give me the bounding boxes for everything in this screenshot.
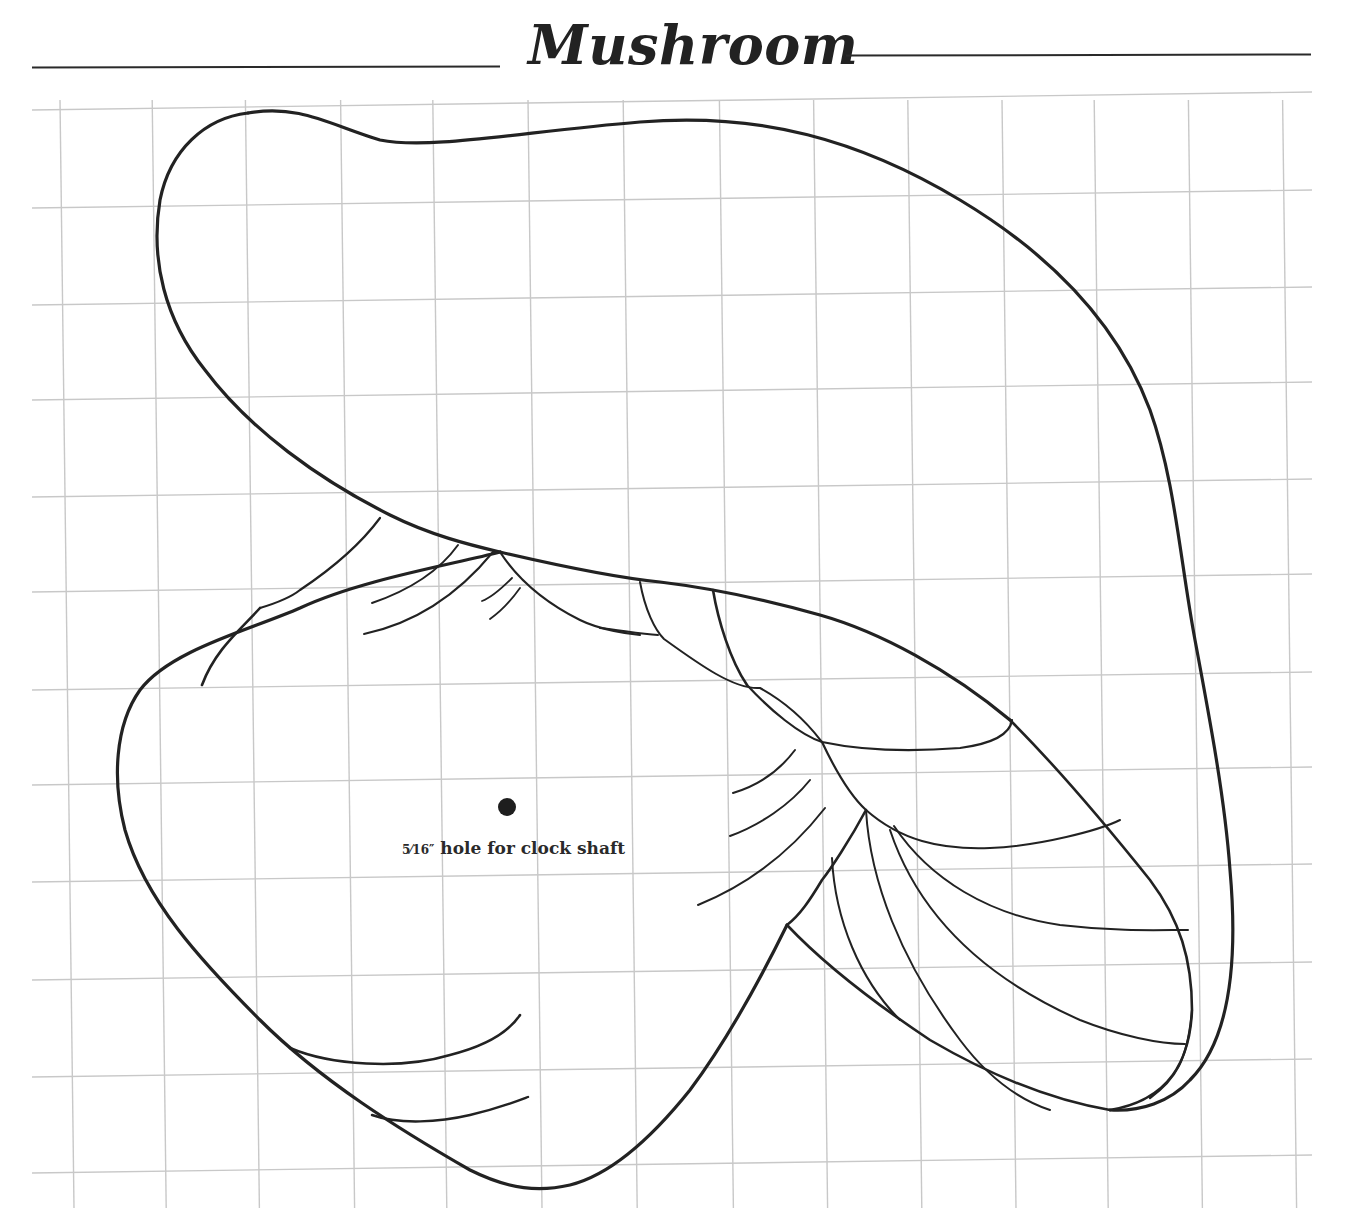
grid-column-line (1002, 100, 1016, 1208)
mushroom-pattern-drawing (0, 0, 1347, 1230)
mushroom-outline (117, 111, 1232, 1189)
grid-row-line (32, 962, 1312, 980)
hole-annotation: 5⁄16″ hole for clock shaft (402, 840, 625, 857)
grid-column-line (1188, 100, 1202, 1208)
grid-column-line (245, 100, 259, 1208)
grid-column-line (433, 100, 447, 1208)
hole-size-fraction: 5⁄16″ (402, 843, 434, 857)
grid-row-line (32, 1155, 1312, 1173)
grid-lines (32, 92, 1312, 1208)
grid-column-line (1094, 100, 1108, 1208)
grid-row-line (32, 767, 1312, 785)
grid-row-line (32, 287, 1312, 305)
title-banner: Mushroom (0, 0, 1347, 100)
grid-row-line (32, 864, 1312, 882)
grid-row-line (32, 1059, 1312, 1077)
page-title: Mushroom (528, 18, 858, 72)
grid-column-line (623, 100, 637, 1208)
pattern-sheet (0, 0, 1347, 1230)
title-rule-left (32, 65, 500, 68)
grid-column-line (60, 100, 74, 1208)
grid-column-line (814, 100, 828, 1208)
grid-column-line (1283, 100, 1297, 1208)
title-rule-right (846, 53, 1311, 56)
grid-column-line (528, 100, 542, 1208)
grid-row-line (32, 190, 1312, 208)
grid-row-line (32, 479, 1312, 497)
shaft-hole-marker (498, 798, 516, 816)
grid-row-line (32, 672, 1312, 690)
grid-column-line (341, 100, 355, 1208)
hole-annotation-text: hole for clock shaft (434, 838, 625, 858)
